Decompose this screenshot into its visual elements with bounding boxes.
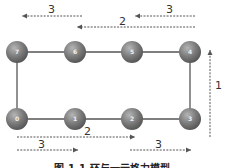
right-vertical-arrow-label: 1 bbox=[215, 79, 222, 92]
node-4: 4 bbox=[179, 41, 201, 63]
edges bbox=[17, 52, 190, 119]
node-6: 6 bbox=[64, 41, 86, 63]
figure-caption: 图 1-1 环与一元格力模型 bbox=[54, 162, 169, 168]
ring-diagram: 3 3 2 1 2 3 3 7 6 5 4 0 1 2 3 图 1-1 环与一元… bbox=[0, 0, 225, 168]
node-3-label: 3 bbox=[188, 115, 192, 122]
node-4-label: 4 bbox=[188, 48, 192, 55]
node-1-label: 1 bbox=[73, 115, 77, 122]
node-3: 3 bbox=[179, 108, 201, 130]
node-5-label: 5 bbox=[130, 48, 134, 55]
node-0: 0 bbox=[6, 108, 28, 130]
node-2-label: 2 bbox=[130, 115, 134, 122]
arrows bbox=[17, 16, 210, 150]
node-0-label: 0 bbox=[15, 115, 19, 122]
node-1: 1 bbox=[64, 108, 86, 130]
node-7: 7 bbox=[6, 41, 28, 63]
top-left-arrow-label: 3 bbox=[48, 3, 55, 16]
node-7-label: 7 bbox=[15, 48, 19, 55]
bottom-right-arrow-label: 3 bbox=[155, 138, 162, 151]
node-6-label: 6 bbox=[73, 48, 77, 55]
node-2: 2 bbox=[121, 108, 143, 130]
bottom-left-arrow-label: 3 bbox=[38, 138, 45, 151]
top-right-arrow-label: 3 bbox=[166, 3, 173, 16]
node-5: 5 bbox=[121, 41, 143, 63]
bottom-middle-arrow-label: 2 bbox=[84, 125, 91, 138]
top-middle-arrow-label: 2 bbox=[119, 15, 126, 28]
